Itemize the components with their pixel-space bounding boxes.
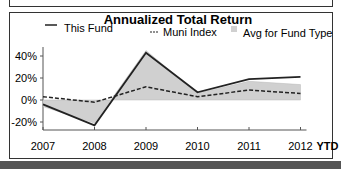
x-tick-label: 2007	[31, 140, 55, 152]
ytd-label: YTD	[317, 140, 339, 152]
x-tick-label: 2010	[185, 140, 209, 152]
x-tick-label: 2011	[237, 140, 261, 152]
x-tick-label: 2009	[134, 140, 158, 152]
chart-title: Annualized Total Return	[104, 12, 253, 27]
annualized-return-chart: Annualized Total Return This Fund Muni I…	[0, 0, 341, 169]
y-tick-label: 20%	[15, 72, 37, 84]
y-tick-label: 40%	[15, 50, 37, 62]
avg-area	[43, 51, 301, 124]
x-tick-label: 2012	[288, 140, 312, 152]
x-axis: 200720082009201020112012YTD	[31, 127, 339, 152]
x-tick-label: 2008	[82, 140, 106, 152]
legend-avg-label: Avg for Fund Type	[243, 27, 332, 39]
legend-fund-label: This Fund	[64, 22, 113, 34]
y-tick-label: 0%	[21, 94, 37, 106]
plot-area	[43, 51, 301, 126]
legend-avg-swatch	[231, 26, 237, 32]
y-axis: 40%20%0%-20%	[11, 47, 43, 130]
y-tick-label: -20%	[11, 116, 37, 128]
legend-index-label: Muni Index	[163, 26, 217, 38]
